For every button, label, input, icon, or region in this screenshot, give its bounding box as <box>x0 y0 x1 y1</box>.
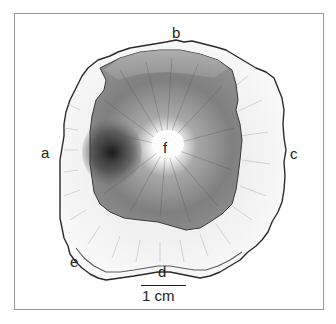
specimen-cross-section <box>0 0 336 324</box>
label-c: c <box>290 146 298 161</box>
center-highlight <box>152 130 184 158</box>
label-d: d <box>158 264 166 279</box>
label-f: f <box>163 140 167 155</box>
scale-bar <box>141 285 186 286</box>
label-b: b <box>172 25 180 40</box>
dark-patch <box>82 118 142 186</box>
label-e: e <box>70 254 78 269</box>
label-a: a <box>41 145 49 160</box>
scale-bar-label: 1 cm <box>142 288 175 303</box>
